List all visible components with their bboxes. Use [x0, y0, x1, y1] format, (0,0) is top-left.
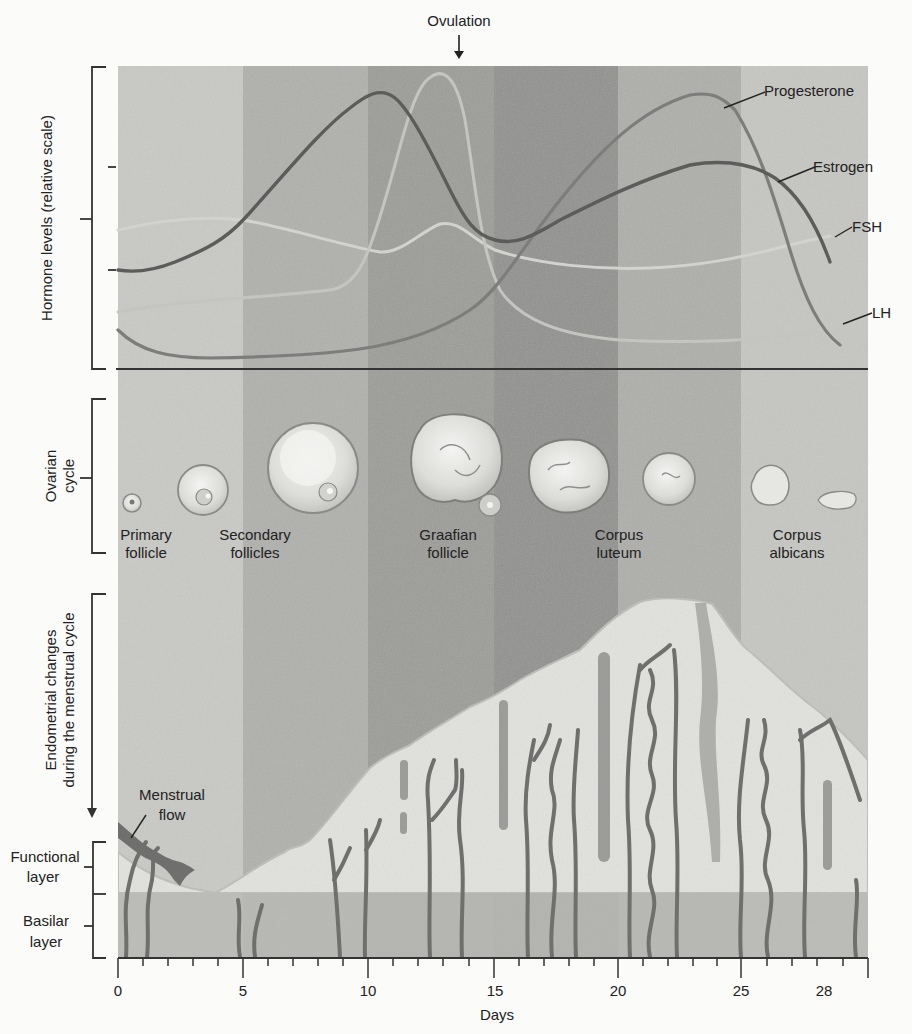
- x-tick-15: 15: [487, 982, 504, 999]
- x-tick-20: 20: [610, 982, 627, 999]
- endometrium-axis-arrow-icon: [87, 594, 106, 818]
- x-tick-25: 25: [733, 982, 750, 999]
- hormone-axis-bracket: [80, 67, 116, 369]
- stage-label-luteum-line2: luteum: [596, 544, 641, 561]
- ovulation-label: Ovulation: [427, 12, 490, 29]
- x-axis: 0 5 10 15 20 25 28 Days: [114, 958, 868, 1023]
- basilar-layer-region: [118, 893, 868, 957]
- endometrium-axis-label-line2: during the menstrual cycle: [60, 612, 77, 787]
- fsh-label: FSH: [852, 218, 882, 235]
- stage-label-graafian-line1: Graafian: [419, 526, 477, 543]
- x-tick-5: 5: [239, 982, 247, 999]
- layer-bracket: [84, 842, 106, 958]
- basilar-layer-label-line2: layer: [30, 933, 63, 950]
- ovarian-axis-label-line2: cycle: [60, 459, 77, 493]
- ovulation-arrow-icon: [454, 35, 464, 59]
- functional-layer-label-line1: Functional: [10, 848, 79, 865]
- x-axis-title: Days: [480, 1006, 514, 1023]
- ovarian-axis-bracket: [80, 399, 106, 553]
- menstrual-cycle-figure: Ovulation Hormone levels (relative scale…: [0, 0, 912, 1034]
- stage-label-graafian-line2: follicle: [427, 544, 469, 561]
- stage-label-secondary-line2: follicles: [230, 544, 279, 561]
- endometrium-axis-label-line1: Endometrial changes: [42, 630, 59, 771]
- corpus-luteum-large-icon: [529, 440, 609, 513]
- primary-follicle-icon: [123, 494, 141, 512]
- secondary-follicle-large-icon: [268, 423, 358, 513]
- lh-label: LH: [872, 304, 891, 321]
- stage-label-albicans-line2: albicans: [769, 544, 824, 561]
- stage-label-secondary-line1: Secondary: [219, 526, 291, 543]
- corpus-albicans-small-icon: [818, 492, 856, 510]
- ovarian-axis-label-line1: Ovarian: [42, 450, 59, 503]
- stage-label-luteum-line1: Corpus: [595, 526, 643, 543]
- x-tick-0: 0: [114, 982, 122, 999]
- functional-layer-label-line2: layer: [27, 868, 60, 885]
- progesterone-label: Progesterone: [764, 82, 854, 99]
- stage-label-primary-line2: follicle: [125, 544, 167, 561]
- stage-label-primary-line1: Primary: [120, 526, 172, 543]
- stage-label-albicans-line1: Corpus: [773, 526, 821, 543]
- basilar-layer-label-line1: Basilar: [23, 912, 69, 929]
- hormone-axis-label: Hormone levels (relative scale): [38, 115, 55, 321]
- x-tick-10: 10: [360, 982, 377, 999]
- secondary-follicle-small-icon: [178, 465, 228, 515]
- estrogen-label: Estrogen: [813, 158, 873, 175]
- corpus-luteum-small-icon: [643, 453, 695, 505]
- menstrual-flow-label-line1: Menstrual: [139, 786, 205, 803]
- x-tick-28: 28: [816, 982, 833, 999]
- menstrual-flow-label-line2: flow: [159, 806, 186, 823]
